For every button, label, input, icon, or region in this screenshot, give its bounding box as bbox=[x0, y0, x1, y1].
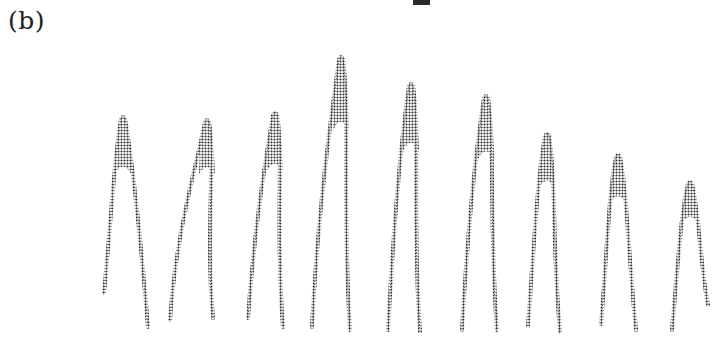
peak-8 bbox=[601, 154, 636, 330]
peak-outline bbox=[388, 84, 420, 332]
peak-5 bbox=[388, 83, 420, 332]
peak-7 bbox=[528, 133, 560, 332]
peak-plot bbox=[0, 0, 725, 339]
peak-3 bbox=[248, 112, 283, 327]
peak-2 bbox=[170, 119, 215, 320]
peak-6 bbox=[462, 95, 497, 330]
peak-9 bbox=[672, 181, 708, 330]
peak-4 bbox=[312, 56, 350, 330]
peaks-group bbox=[104, 56, 708, 332]
peak-outline bbox=[462, 96, 497, 330]
peak-1 bbox=[104, 116, 148, 327]
peak-outline bbox=[312, 57, 350, 330]
peak-outline bbox=[248, 113, 283, 327]
